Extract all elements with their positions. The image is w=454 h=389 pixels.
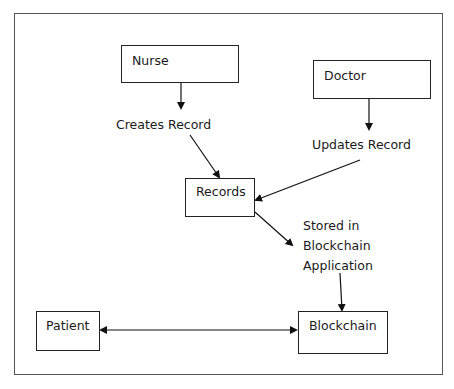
node-blockchain: Blockchain — [298, 311, 388, 354]
node-doctor-label: Doctor — [324, 68, 366, 83]
edge-label-creates-record: Creates Record — [116, 115, 211, 135]
node-records-label: Records — [196, 184, 246, 199]
node-nurse: Nurse — [121, 45, 239, 83]
node-doctor: Doctor — [313, 60, 431, 99]
edge-label-stored-line1: Stored in — [303, 216, 359, 236]
node-patient-label: Patient — [46, 318, 90, 333]
edge-label-stored-line3: Application — [303, 256, 373, 276]
edge-label-stored-line2: Blockchain — [303, 236, 371, 256]
node-nurse-label: Nurse — [132, 53, 169, 68]
node-records: Records — [185, 178, 255, 217]
edge-label-updates-record: Updates Record — [312, 135, 411, 155]
node-blockchain-label: Blockchain — [309, 318, 377, 333]
node-patient: Patient — [36, 311, 100, 351]
